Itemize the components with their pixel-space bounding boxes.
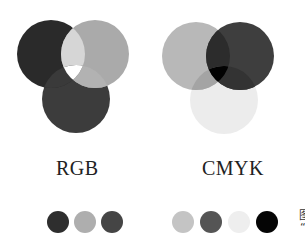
cmyk-swatch-magenta — [200, 211, 222, 233]
edge-glyph-top: 图 — [299, 210, 305, 221]
cmyk-swatch-cyan — [172, 211, 194, 233]
cmyk-swatch-yellow — [228, 211, 250, 233]
rgb-swatch-blue — [101, 211, 123, 233]
edge-glyph-bottom: “ — [300, 222, 305, 233]
cmyk-swatch-key — [256, 211, 278, 233]
cmyk-venn — [162, 22, 274, 134]
rgb-swatch-red — [47, 211, 69, 233]
rgb-venn — [17, 20, 129, 133]
rgb-swatch-green — [74, 211, 96, 233]
rgb-label: RGB — [56, 157, 99, 180]
cmyk-label: CMYK — [202, 157, 264, 180]
